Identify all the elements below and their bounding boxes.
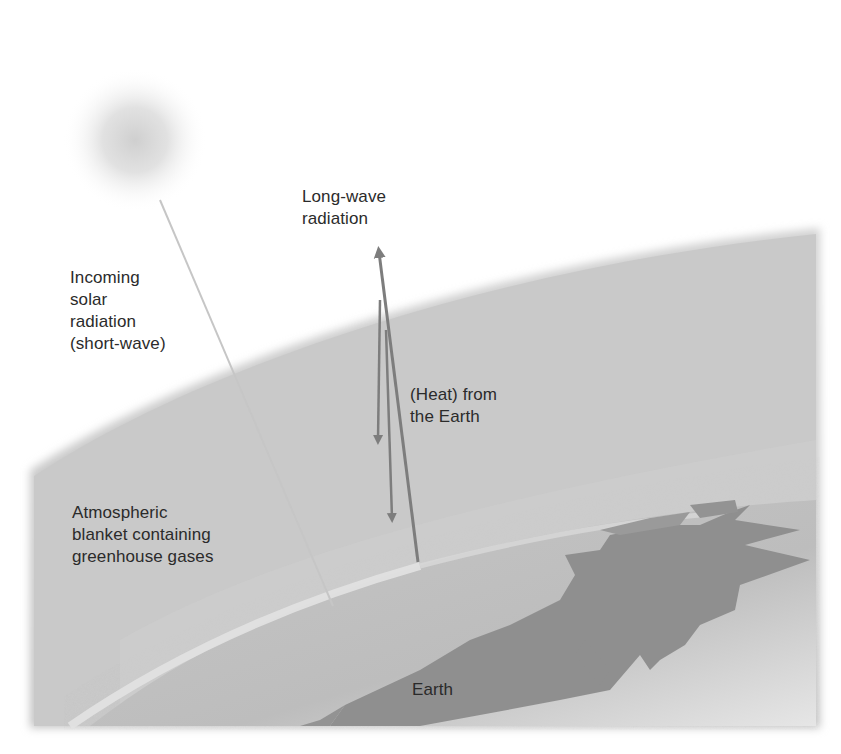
incoming-solar-radiation-label: Incoming solar radiation (short-wave) bbox=[70, 267, 166, 355]
earth-label: Earth bbox=[412, 679, 453, 701]
long-wave-radiation-label: Long-wave radiation bbox=[302, 186, 386, 230]
diagram-artwork bbox=[0, 0, 841, 754]
atmospheric-blanket-label: Atmospheric blanket containing greenhous… bbox=[72, 502, 214, 568]
greenhouse-effect-diagram: Long-wave radiation Incoming solar radia… bbox=[0, 0, 841, 754]
sun-icon bbox=[63, 68, 207, 212]
heat-from-earth-label: (Heat) from the Earth bbox=[410, 384, 497, 428]
